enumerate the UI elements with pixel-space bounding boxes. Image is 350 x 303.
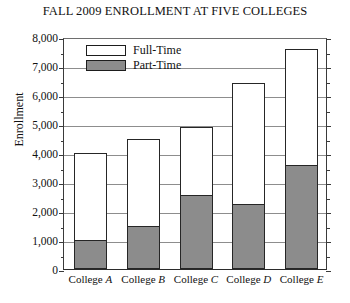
y-axis-title: Enrollment [12, 65, 27, 175]
y-axis-tick-label: 8,000 [32, 33, 58, 45]
axis-tick-minor [326, 83, 330, 84]
bar-college-e [285, 49, 318, 269]
legend-label-full-time: Full-Time [133, 44, 181, 56]
bar-segment-full-time [232, 83, 265, 203]
axis-tick-major [59, 271, 64, 272]
bar-segment-part-time [232, 204, 265, 269]
bar-college-d [232, 83, 265, 269]
axis-tick-minor [326, 228, 330, 229]
y-axis-tick-label: 0 [52, 265, 58, 277]
x-axis-tick-label: College E [280, 273, 324, 285]
axis-tick-major [326, 271, 331, 272]
enrollment-bar-chart: FALL 2009 ENROLLMENT AT FIVE COLLEGES En… [0, 0, 350, 303]
axis-tick-minor [326, 199, 330, 200]
bar-segment-full-time [285, 49, 318, 165]
y-axis-tick-label: 1,000 [32, 236, 58, 248]
plot-area: 8,0007,0006,0005,0004,0003,0002,0001,000… [63, 38, 327, 270]
y-axis-tick-label: 7,000 [32, 62, 58, 74]
bar-segment-part-time [180, 195, 213, 269]
bar-segment-part-time [74, 240, 107, 269]
bar-segment-part-time [285, 165, 318, 269]
axis-tick-major [326, 242, 331, 243]
y-axis-tick-label: 5,000 [32, 120, 58, 132]
bars-group [64, 39, 326, 269]
bar-segment-full-time [127, 139, 160, 226]
bar-segment-full-time [74, 153, 107, 240]
bar-segment-part-time [127, 226, 160, 270]
axis-tick-minor [326, 170, 330, 171]
legend-swatch-part-time-icon [86, 60, 126, 71]
legend-item-full-time: Full-Time [86, 43, 181, 57]
chart-legend: Full-Time Part-Time [86, 43, 181, 73]
bar-college-a [74, 153, 107, 269]
legend-label-part-time: Part-Time [133, 59, 181, 71]
axis-tick-major [326, 126, 331, 127]
x-axis-tick-label: College D [226, 273, 271, 285]
axis-tick-minor [326, 112, 330, 113]
x-axis-tick-label: College B [121, 273, 165, 285]
legend-swatch-full-time-icon [86, 45, 126, 56]
axis-tick-major [326, 213, 331, 214]
y-axis-tick-label: 4,000 [32, 149, 58, 161]
y-axis-tick-label: 3,000 [32, 178, 58, 190]
axis-tick-minor [326, 54, 330, 55]
x-axis-tick-label: College C [174, 273, 218, 285]
y-axis-tick-label: 6,000 [32, 91, 58, 103]
x-axis-tick-label: College A [69, 273, 113, 285]
bar-college-c [180, 127, 213, 269]
axis-tick-major [326, 155, 331, 156]
bar-segment-full-time [180, 127, 213, 195]
chart-title: FALL 2009 ENROLLMENT AT FIVE COLLEGES [0, 4, 350, 19]
axis-tick-major [326, 39, 331, 40]
bar-college-b [127, 139, 160, 270]
y-axis-tick-label: 2,000 [32, 207, 58, 219]
legend-item-part-time: Part-Time [86, 58, 181, 72]
axis-tick-major [326, 184, 331, 185]
axis-tick-minor [326, 141, 330, 142]
axis-tick-major [326, 68, 331, 69]
axis-tick-major [326, 97, 331, 98]
axis-tick-minor [326, 257, 330, 258]
